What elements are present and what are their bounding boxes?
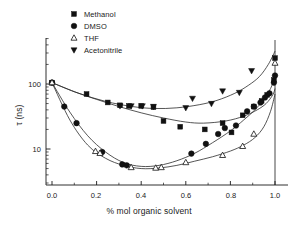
chart-canvas — [0, 0, 298, 229]
legend-marker-methanol — [72, 12, 77, 17]
x-tick-label: 0.8 — [226, 191, 237, 200]
data-point-acetonitrile — [183, 106, 189, 111]
data-point-dmso — [222, 125, 228, 131]
x-tick-label: 0.6 — [181, 191, 192, 200]
data-point-methanol — [84, 92, 89, 97]
data-point-dmso — [74, 120, 80, 126]
legend-marker-acetonitrile — [71, 48, 77, 53]
x-tick-label: 0.0 — [47, 191, 58, 200]
y-tick-label: 10 — [21, 145, 41, 154]
data-point-methanol — [229, 130, 234, 135]
data-point-thf — [240, 143, 246, 148]
data-point-dmso — [189, 151, 195, 157]
data-point-thf — [251, 131, 257, 136]
x-tick-label: 1.0 — [270, 191, 281, 200]
y-tick-label: 100 — [21, 80, 41, 89]
data-point-thf — [183, 159, 189, 164]
legend-label-acetonitrile: Acetonitrile — [84, 46, 122, 55]
data-point-dmso — [258, 100, 264, 106]
data-point-dmso — [61, 104, 67, 110]
data-point-dmso — [233, 123, 239, 129]
data-point-methanol — [220, 121, 225, 126]
legend-label-methanol: Methanol — [84, 10, 116, 19]
fit-curve-acetonitrile — [52, 51, 275, 108]
data-point-dmso — [244, 109, 250, 115]
legend-marker-thf — [71, 35, 77, 40]
x-tick-label: 0.2 — [91, 191, 102, 200]
data-point-methanol — [240, 113, 245, 118]
data-point-methanol — [161, 119, 166, 124]
figure-container: % mol organic solvent τ (ns) 0.0 0.2 0.4… — [0, 0, 298, 229]
data-point-acetonitrile — [236, 90, 242, 95]
data-point-dmso — [267, 90, 273, 96]
data-point-acetonitrile — [189, 96, 195, 101]
y-axis-title: τ (ns) — [14, 85, 24, 145]
x-tick-label: 0.4 — [136, 191, 147, 200]
data-point-thf — [92, 148, 98, 153]
data-point-methanol — [202, 127, 207, 132]
x-axis-title: % mol organic solvent — [106, 206, 191, 216]
data-point-dmso — [251, 104, 257, 110]
data-point-dmso — [215, 131, 221, 137]
data-point-methanol — [178, 124, 183, 129]
data-point-dmso — [203, 141, 209, 147]
legend-marker-dmso — [71, 23, 77, 29]
data-point-dmso — [271, 80, 277, 86]
legend-label-thf: THF — [84, 34, 99, 43]
data-point-methanol — [105, 100, 110, 105]
data-point-acetonitrile — [220, 89, 226, 94]
data-point-acetonitrile — [249, 69, 255, 74]
data-point-acetonitrile — [208, 101, 214, 106]
legend-label-dmso: DMSO — [84, 22, 107, 31]
data-point-dmso — [272, 73, 278, 79]
data-point-dmso — [124, 163, 130, 169]
data-point-dmso — [262, 95, 268, 101]
